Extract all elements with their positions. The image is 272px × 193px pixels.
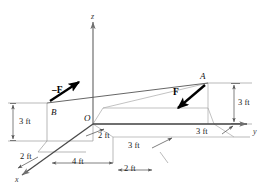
dim-x-a-offset-label: 3 ft: [128, 141, 140, 150]
force-f-arrow: [178, 85, 205, 108]
point-a-label: A: [200, 72, 206, 81]
b-box-construction-lines: [38, 103, 93, 152]
x-axis-label: x: [15, 176, 19, 184]
dimension-extension-lines: [8, 83, 252, 163]
dim-a-height-label: 3 ft: [238, 98, 250, 107]
z-axis-label: z: [91, 13, 94, 21]
force-minus-f-label: –F: [52, 86, 63, 96]
dimline-a-x-offset: [152, 138, 172, 148]
point-b-label: B: [51, 108, 57, 117]
upper-face-left-edge: [93, 108, 103, 124]
upper-face-right-edge: [208, 108, 214, 124]
b-base-diag: [38, 141, 47, 152]
dim-y-a-offset-label: 3 ft: [196, 127, 208, 136]
figure-canvas: z y x O A B F –F 3 ft 3 ft 3 ft 3 ft 2 f…: [0, 0, 272, 193]
y-axis-label: y: [253, 128, 257, 136]
diagram-vector-graphics: [0, 0, 272, 193]
dim-x-right-label: 2 ft: [124, 164, 136, 173]
dim-x-left-label: 2 ft: [20, 152, 32, 161]
plane-edge-right-diag: [214, 124, 234, 137]
x-axis: [22, 124, 93, 175]
force-f-label: F: [173, 88, 179, 98]
ground-plane-construction-lines: [93, 83, 234, 137]
origin-label: O: [84, 114, 91, 123]
ext-x-right: [160, 152, 168, 163]
dim-x-mid-label: 4 ft: [72, 157, 84, 166]
dim-origin-y-label: 2 ft: [98, 131, 110, 140]
dim-b-height-label: 3 ft: [19, 117, 31, 126]
